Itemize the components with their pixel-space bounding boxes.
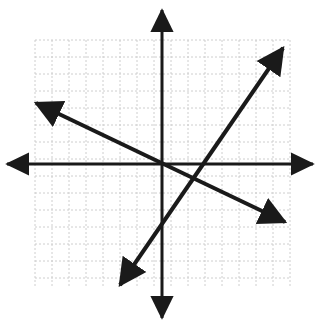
graph-canvas (0, 0, 321, 326)
coordinate-plane-figure (0, 0, 321, 326)
